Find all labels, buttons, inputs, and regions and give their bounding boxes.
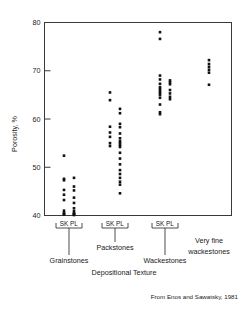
data-point — [159, 94, 162, 97]
group-name-label-very-fine-line1: Very fine — [195, 236, 223, 245]
data-point — [119, 112, 122, 115]
y-tick-label: 60 — [33, 115, 41, 124]
data-point — [159, 74, 162, 77]
data-point — [119, 173, 122, 176]
data-point — [169, 98, 172, 101]
data-point — [159, 96, 162, 99]
data-point — [109, 131, 112, 134]
data-point — [119, 151, 122, 154]
data-point — [109, 99, 112, 102]
data-point — [208, 59, 211, 62]
y-tick-label: 40 — [33, 211, 41, 220]
data-point — [119, 123, 122, 126]
data-point — [119, 146, 122, 149]
data-point — [119, 169, 122, 172]
data-point — [109, 91, 112, 94]
y-tick-label: 80 — [33, 18, 41, 27]
data-point — [63, 179, 66, 182]
data-point — [73, 207, 76, 210]
data-point — [109, 125, 112, 128]
data-point — [119, 163, 122, 166]
group-sublabel-sk: SK — [60, 220, 69, 227]
data-point — [159, 31, 162, 34]
data-points — [63, 31, 211, 216]
data-point — [73, 189, 76, 192]
group-name-label-very-fine-line2: wackestones — [187, 247, 230, 256]
group-name-label: Wackestones — [144, 256, 187, 265]
group-sublabel-pl: PL — [166, 220, 174, 227]
data-point — [119, 177, 122, 180]
data-point — [73, 185, 76, 188]
data-point — [208, 63, 211, 66]
x-axis-title: Depositional Texture — [92, 268, 157, 277]
data-point — [119, 192, 122, 195]
data-point — [73, 196, 76, 199]
data-point — [73, 202, 76, 205]
data-point — [63, 209, 66, 212]
data-point — [169, 83, 172, 86]
data-point — [119, 126, 122, 129]
data-point — [208, 66, 211, 69]
chart-figure: 4050607080 Porosity, % SKPLGrainstonesSK… — [0, 0, 247, 312]
data-point — [119, 132, 122, 135]
data-point — [63, 193, 66, 196]
group-sublabel-sk: SK — [156, 220, 165, 227]
group-sublabel-pl: PL — [70, 220, 78, 227]
group-sublabel-sk: SK — [106, 220, 115, 227]
data-point — [159, 38, 162, 41]
data-point — [169, 89, 172, 92]
plot-frame — [45, 23, 232, 216]
y-tick-label: 50 — [33, 163, 41, 172]
data-point — [63, 199, 66, 202]
data-point — [109, 136, 112, 139]
data-point — [159, 113, 162, 116]
y-tick-label: 70 — [33, 66, 41, 75]
data-point — [63, 154, 66, 157]
data-point — [109, 142, 112, 145]
data-point — [208, 83, 211, 86]
data-point — [119, 108, 122, 111]
data-point — [169, 92, 172, 95]
data-point — [109, 145, 112, 148]
y-axis-title: Porosity, % — [10, 115, 19, 151]
data-point — [119, 137, 122, 140]
data-point — [119, 180, 122, 183]
data-point — [169, 96, 172, 99]
group-sublabel-pl: PL — [116, 220, 124, 227]
x-axis-groups: SKPLGrainstonesSKPLPackstonesSKPLWackest… — [50, 220, 231, 265]
data-point — [119, 157, 122, 160]
data-point — [159, 103, 162, 106]
data-point — [208, 68, 211, 71]
scatter-plot-svg: 4050607080 Porosity, % SKPLGrainstonesSK… — [0, 0, 247, 312]
data-point — [159, 78, 162, 81]
data-point — [119, 183, 122, 186]
source-credit: From Enos and Sawatsky, 1981 — [151, 293, 239, 300]
data-point — [73, 214, 76, 217]
data-point — [63, 213, 66, 216]
group-name-label: Packstones — [96, 243, 134, 252]
y-axis: 4050607080 — [33, 18, 51, 220]
data-point — [63, 189, 66, 192]
group-name-label: Grainstones — [50, 256, 89, 265]
data-point — [159, 82, 162, 85]
data-point — [73, 177, 76, 180]
data-point — [208, 71, 211, 74]
